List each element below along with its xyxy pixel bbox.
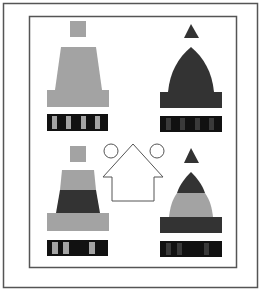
buoy-top-left	[47, 21, 109, 131]
circle-left-icon	[104, 144, 118, 158]
code-bar	[47, 114, 108, 131]
triangle-marker-icon	[184, 24, 199, 38]
dome-band-middle	[169, 193, 213, 217]
buoy-base	[47, 213, 109, 231]
code-bar	[160, 116, 222, 132]
triangle-marker-icon	[184, 148, 199, 163]
buoy-base	[47, 90, 109, 107]
buoy-bottom-right	[160, 148, 222, 257]
trapezoid-band-top	[60, 170, 96, 190]
code-bar	[47, 240, 108, 256]
dome-band-top	[177, 172, 205, 193]
center-house	[103, 144, 164, 201]
code-bar	[160, 241, 222, 257]
buoy-base	[160, 92, 222, 108]
buoy-top-right	[160, 24, 222, 132]
buoy-base	[160, 217, 222, 233]
house-outline-icon	[103, 144, 163, 201]
trapezoid-band-middle	[56, 190, 100, 213]
square-marker-icon	[70, 146, 86, 162]
puzzle-figure	[0, 0, 261, 294]
trapezoid-body	[55, 47, 102, 90]
buoy-bottom-left	[47, 146, 109, 256]
circle-right-icon	[150, 144, 164, 158]
dome-body	[168, 47, 214, 92]
square-marker-icon	[70, 21, 86, 37]
